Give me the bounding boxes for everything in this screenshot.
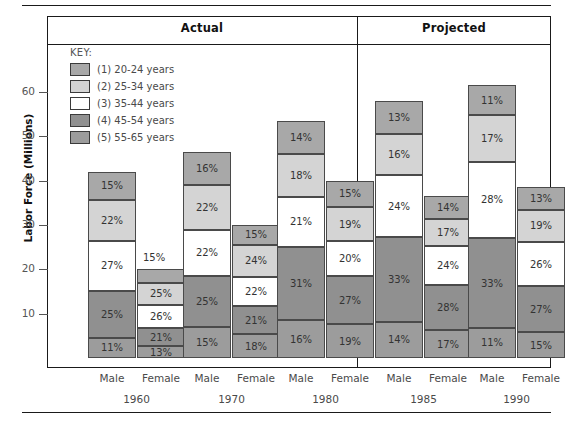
bar-segment: 25% [88,291,136,338]
stacked-bar: 15%24%22%21%18% [232,225,280,358]
x-axis-year-label: 1960 [89,393,185,405]
bar-segment: 31% [277,247,325,321]
bar-segment: 25% [137,283,185,305]
bar-segment: 14% [375,322,423,358]
stacked-bar: 13%16%24%33%14% [375,101,423,358]
bar-segment: 13% [517,187,565,209]
bar-segment: 26% [137,305,185,328]
stacked-bar: 15%22%27%25%11% [88,172,136,358]
segment-callout-label: 15% [143,252,165,263]
bar-segment: 22% [232,277,280,306]
x-axis-gender-label: Male [181,372,233,384]
bar-segment: 15% [232,225,280,245]
bar-segment: 28% [468,162,516,238]
bar-segment: 27% [326,276,374,324]
bar-segment: 20% [326,241,374,276]
x-axis-gender-label: Female [324,372,376,384]
stacked-bar: 15%19%20%27%19% [326,181,374,358]
bar-segment: 11% [468,85,516,115]
x-axis-gender-label: Male [275,372,327,384]
bar-segment: 14% [277,121,325,154]
x-axis-gender-label: Male [86,372,138,384]
bar-segment: 33% [468,238,516,328]
bar-segment: 21% [277,197,325,247]
stacked-bar: 14%17%24%28%17% [424,196,472,358]
stacked-bar: 14%18%21%31%16% [277,121,325,358]
bar-segment: 16% [375,134,423,175]
bar-segment: 13% [137,346,185,358]
bar-segment: 22% [88,200,136,241]
bar-segment: 11% [88,338,136,358]
bar-segment: 15% [326,181,374,208]
stacked-bar: 25%26%21%13% [137,269,185,358]
bar-segment: 13% [375,101,423,134]
x-axis-year-label: 1970 [184,393,280,405]
bar-segment [137,269,185,282]
bar-segment: 22% [183,185,231,230]
bar-segment: 24% [232,245,280,277]
bar-segment: 14% [424,196,472,219]
bar-segment: 22% [183,230,231,275]
plot-area: 15%22%27%25%11%15%25%26%21%13%16%22%22%2… [0,0,573,426]
bar-segment: 16% [277,320,325,358]
bar-segment: 11% [468,328,516,358]
bar-segment: 17% [468,115,516,161]
bar-segment: 15% [183,327,231,358]
bar-segment: 26% [517,242,565,286]
bar-segment: 15% [517,332,565,358]
x-axis-gender-label: Male [466,372,518,384]
x-axis-gender-label: Male [373,372,425,384]
bar-segment: 21% [232,306,280,334]
bar-segment: 19% [326,207,374,241]
x-axis-gender-label: Female [135,372,187,384]
bar-segment: 18% [277,154,325,197]
bar-segment: 24% [375,175,423,237]
bar-segment: 24% [424,246,472,285]
stacked-bar: 13%19%26%27%15% [517,187,565,358]
x-axis-year-label: 1980 [278,393,374,405]
bar-segment: 27% [88,241,136,291]
bar-segment: 28% [424,285,472,330]
stacked-bar: 16%22%22%25%15% [183,152,231,358]
bar-segment: 33% [375,237,423,322]
bar-segment: 21% [137,328,185,347]
x-axis-gender-label: Female [515,372,567,384]
bar-segment: 19% [326,324,374,358]
bar-segment: 15% [88,172,136,200]
bar-segment: 17% [424,330,472,358]
bar-segment: 19% [517,210,565,242]
bar-segment: 27% [517,286,565,332]
stacked-bar: 11%17%28%33%11% [468,85,516,358]
x-axis-year-label: 1985 [376,393,472,405]
bar-segment: 16% [183,152,231,185]
bar-segment: 18% [232,334,280,358]
bar-segment: 25% [183,276,231,328]
bar-segment: 17% [424,219,472,247]
x-axis-year-label: 1990 [469,393,565,405]
